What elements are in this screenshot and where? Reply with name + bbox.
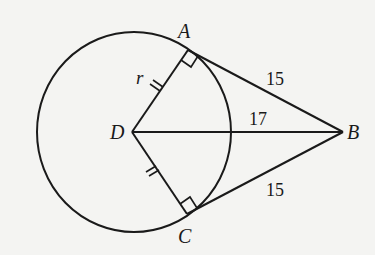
radius-DC: [132, 132, 187, 214]
length-label-DB: 17: [249, 109, 267, 129]
diagram-canvas: A B C D 15 17 15 r: [0, 0, 375, 255]
tangent-CB: [187, 132, 343, 214]
length-label-AB: 15: [266, 69, 284, 89]
length-label-CB: 15: [266, 180, 284, 200]
radius-label-r: r: [136, 67, 144, 88]
point-label-D: D: [109, 121, 125, 143]
geometry-diagram: A B C D 15 17 15 r: [0, 0, 375, 255]
tick-marks-DC: [146, 166, 159, 176]
point-label-A: A: [176, 20, 191, 42]
point-label-B: B: [347, 121, 359, 143]
point-label-C: C: [178, 225, 192, 247]
